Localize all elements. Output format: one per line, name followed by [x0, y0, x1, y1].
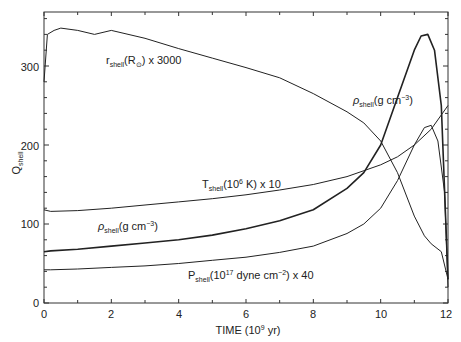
x-tick-label: 6 [243, 308, 249, 320]
plot-frame [44, 12, 448, 303]
y-tick-label: 0 [33, 297, 39, 309]
x-tick-label: 2 [108, 308, 114, 320]
label-rho-shell-mid: ρshell(g cm−3) [97, 220, 158, 234]
series-rho-shell [44, 34, 448, 279]
x-tick-label: 8 [310, 308, 316, 320]
label-p-shell: Pshell(1017 dyne cm−2) x 40 [188, 269, 314, 283]
y-tick-label: 100 [21, 218, 39, 230]
label-rho-shell-top: ρshell(g cm−3) [352, 94, 413, 108]
x-tick-label: 10 [375, 308, 387, 320]
x-tick-label: 0 [41, 308, 47, 320]
axis-ticks [44, 12, 448, 303]
x-axis-title: TIME (109 yr) [215, 324, 280, 336]
y-tick-label: 300 [21, 61, 39, 73]
x-tick-label: 4 [176, 308, 182, 320]
x-tick-label: 12 [440, 308, 452, 320]
series-t-shell [44, 106, 448, 212]
label-r-shell: rshell(R⊙) x 3000 [106, 54, 181, 68]
chart: 0 100 200 300 0 2 4 6 8 10 12 TIME (109 … [0, 0, 461, 342]
data-series [44, 28, 448, 287]
y-tick-label: 200 [21, 140, 39, 152]
series-p-shell [44, 125, 448, 287]
label-t-shell: Tshell(106 K) x 10 [202, 178, 281, 192]
y-axis-title: Qshell [10, 151, 24, 174]
series-r-shell [44, 28, 448, 279]
